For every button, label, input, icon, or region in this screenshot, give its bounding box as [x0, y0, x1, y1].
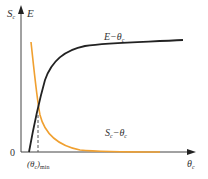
x-axis-arrow-icon	[187, 149, 196, 155]
x-label-theta: θc	[187, 158, 195, 170]
chart-canvas: Sc E E−θc Sc−θc 0 (θc)min θc	[0, 0, 208, 179]
curve-sc-theta	[31, 42, 160, 152]
theta-min-label: (θc)min	[27, 159, 49, 170]
origin-label: 0	[10, 147, 15, 158]
label-sc-theta: Sc−θc	[105, 127, 127, 139]
label-e-theta: E−θc	[103, 31, 125, 43]
y-label-sc: Sc	[7, 7, 16, 20]
y-axis-arrow-icon	[18, 5, 24, 14]
y-label-e: E	[26, 7, 34, 19]
